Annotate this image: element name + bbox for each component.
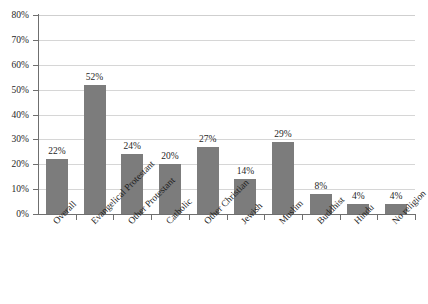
x-axis-tick-mark bbox=[113, 215, 114, 220]
bar-value-label: 29% bbox=[261, 129, 305, 140]
bar-value-label: 52% bbox=[73, 72, 117, 83]
x-axis-tick-mark bbox=[76, 215, 77, 220]
bar-chart: 0%10%20%30%40%50%60%70%80% 22%52%24%20%2… bbox=[0, 0, 428, 304]
x-axis-tick-mark bbox=[264, 215, 265, 220]
bars bbox=[38, 15, 415, 214]
x-axis-tick-mark bbox=[189, 215, 190, 220]
x-axis-tick-mark bbox=[415, 215, 416, 220]
y-axis-tick-label: 30% bbox=[12, 134, 29, 144]
x-axis-tick-mark bbox=[151, 215, 152, 220]
x-axis-tick-mark bbox=[302, 215, 303, 220]
y-axis-tick-label: 60% bbox=[12, 60, 29, 70]
x-axis-tick-mark bbox=[340, 215, 341, 220]
bar-value-label: 22% bbox=[35, 146, 79, 157]
y-axis-tick-label: 70% bbox=[12, 35, 29, 45]
x-axis-tick-mark bbox=[377, 215, 378, 220]
plot-area bbox=[38, 15, 415, 214]
y-axis-line bbox=[38, 14, 39, 215]
y-axis-tick-label: 50% bbox=[12, 85, 29, 95]
x-axis-tick-mark bbox=[227, 215, 228, 220]
bar-value-label: 14% bbox=[223, 166, 267, 177]
bar bbox=[84, 85, 106, 214]
y-axis-tick-label: 80% bbox=[12, 10, 29, 20]
y-axis-tick-label: 0% bbox=[16, 209, 29, 219]
bar bbox=[272, 142, 294, 214]
y-axis-tick-label: 10% bbox=[12, 184, 29, 194]
bar-value-label: 27% bbox=[186, 134, 230, 145]
bar-value-label: 20% bbox=[148, 151, 192, 162]
y-axis-tick-label: 40% bbox=[12, 110, 29, 120]
y-axis-tick-label: 20% bbox=[12, 159, 29, 169]
